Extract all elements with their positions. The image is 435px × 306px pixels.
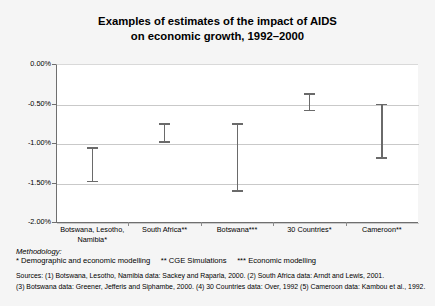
gridline [57,223,419,224]
y-axis-tick-mark [52,64,56,65]
error-bar-cap-bottom [232,190,243,192]
y-axis-tick-mark [52,183,56,184]
methodology-heading: Methodology: [16,247,62,256]
x-axis-category-label-line: South Africa** [128,225,200,235]
x-axis-category-label-line: Botswana*** [201,225,273,235]
error-bar-cap-bottom [87,181,98,183]
y-axis-tick-mark [52,104,56,105]
y-axis-tick-label: 0.00% [5,60,51,68]
error-bar-stem [381,104,382,159]
error-bar-cap-bottom [304,110,315,112]
methodology-note: * Demographic and economic modelling ** … [16,256,316,265]
x-axis-category-label-line: 30 Countries* [273,225,345,235]
x-axis-line [56,222,418,223]
error-bar-cap-bottom [376,157,387,159]
error-bar-stem [164,123,165,143]
y-axis-tick-label: -1.50% [5,179,51,187]
y-axis-tick-label: -1.00% [5,139,51,147]
chart-figure: Examples of estimates of the impact of A… [0,0,435,306]
y-axis-tick-label: -2.00% [5,218,51,226]
x-axis-category-label-line: Botswana, Lesotho, [56,225,128,235]
chart-title: Examples of estimates of the impact of A… [0,14,435,44]
x-axis-category-label: Botswana*** [201,225,273,235]
chart-title-line-1: Examples of estimates of the impact of A… [98,15,337,27]
error-bar-stem [309,93,310,111]
x-axis-category-label: Cameroon** [346,225,418,235]
x-axis-category-label: 30 Countries* [273,225,345,235]
gridline [57,105,419,106]
x-axis-category-label: South Africa** [128,225,200,235]
x-axis-category-label-line: Namibia* [56,235,128,245]
error-bar-stem [237,123,238,192]
error-bar [87,147,98,183]
error-bar [376,104,387,159]
chart-title-line-2: on economic growth, 1992–2000 [0,29,435,44]
error-bar-cap-bottom [159,141,170,143]
x-axis-category-label: Botswana, Lesotho,Namibia* [56,225,128,244]
sources-line-2: (3) Botswana data: Greener, Jefferis and… [16,283,425,290]
x-axis-category-label-line: Cameroon** [346,225,418,235]
error-bar-stem [92,147,93,183]
y-axis-tick-label: -0.50% [5,100,51,108]
sources-line-1: Sources: (1) Botswana, Lesotho, Namibia … [16,272,384,279]
y-axis-tick-mark [52,143,56,144]
error-bar [304,93,315,111]
error-bar [159,123,170,143]
error-bar [232,123,243,192]
